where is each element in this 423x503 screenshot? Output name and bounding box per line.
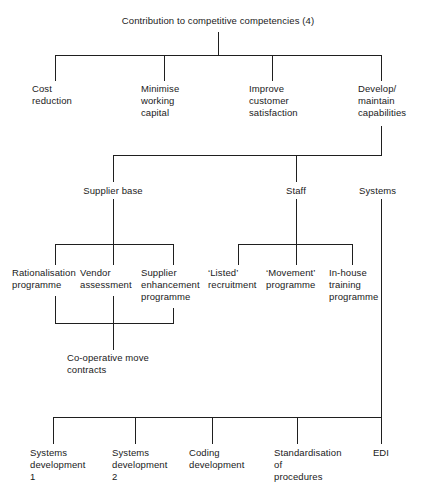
edge-level1-drop-cost	[55, 55, 56, 81]
edge-level1-drop-minimise	[164, 55, 165, 81]
edge-systems-spine	[381, 199, 382, 417]
edge-merge-riser-enhancement	[173, 308, 174, 324]
node-cost-reduction: Cost reduction	[32, 83, 122, 107]
edge-staff-drop-movement	[296, 244, 297, 265]
edge-develop-stem	[381, 126, 382, 156]
edge-merge-riser-rationalisation	[55, 296, 56, 324]
node-systems-development-2: Systems development 2	[112, 447, 186, 484]
node-supplier-base: Supplier base	[58, 185, 168, 197]
node-standardisation-of-procedures: Standardisation of procedures	[274, 447, 356, 484]
node-systems: Systems	[359, 185, 421, 197]
edge-supplier-children-bar	[55, 244, 174, 245]
edge-staff-drop-listed	[238, 244, 239, 265]
edge-systems-drop-dev1	[53, 417, 54, 444]
edge-staff-stem	[296, 199, 297, 245]
edge-level1-bar	[55, 55, 382, 56]
edge-systems-drop-standardisation	[297, 417, 298, 444]
node-supplier-enhancement-programme: Supplier enhancement programme	[141, 267, 207, 304]
node-edi: EDI	[361, 447, 401, 459]
edge-merge-stem-vendor	[113, 296, 114, 350]
root-node-label: Contribution to competitive competencies…	[68, 15, 368, 27]
edge-supplier-drop-rationalisation	[55, 244, 56, 265]
node-staff: Staff	[261, 185, 331, 197]
node-cooperative-move-contracts: Co-operative move contracts	[67, 352, 197, 376]
edge-merge-bar	[55, 323, 174, 324]
node-develop-maintain-capabilities: Develop/ maintain capabilities	[358, 83, 423, 120]
node-minimise-working-capital: Minimise working capital	[141, 83, 231, 120]
edge-level2-bar	[113, 155, 382, 156]
node-improve-customer-satisfaction: Improve customer satisfaction	[249, 83, 349, 120]
edge-systems-children-bar	[53, 417, 382, 418]
edge-supplier-drop-vendor	[113, 244, 114, 265]
node-systems-development-1: Systems development 1	[30, 447, 104, 484]
edge-systems-drop-edi	[381, 417, 382, 444]
edge-staff-drop-inhouse	[352, 244, 353, 265]
node-listed-recruitment: ‘Listed’ recruitment	[208, 267, 264, 291]
edge-systems-drop-dev2	[135, 417, 136, 444]
node-coding-development: Coding development	[189, 447, 269, 471]
node-rationalisation-programme: Rationalisation programme	[12, 267, 74, 291]
edge-level1-drop-improve	[272, 55, 273, 81]
edge-level1-drop-develop	[381, 55, 382, 81]
edge-supplier-drop-enhancement	[173, 244, 174, 265]
edge-root-stem	[218, 32, 219, 56]
edge-systems-drop-coding	[212, 417, 213, 444]
edge-level2-drop-staff	[296, 155, 297, 182]
node-vendor-assessment: Vendor assessment	[80, 267, 138, 291]
edge-supplier-base-stem	[113, 199, 114, 245]
node-movement-programme: ‘Movement’ programme	[266, 267, 328, 291]
edge-level2-drop-supplier-base	[113, 155, 114, 182]
tree-diagram-canvas: Contribution to competitive competencies…	[0, 0, 423, 503]
node-inhouse-training-programme: In-house training programme	[329, 267, 381, 304]
